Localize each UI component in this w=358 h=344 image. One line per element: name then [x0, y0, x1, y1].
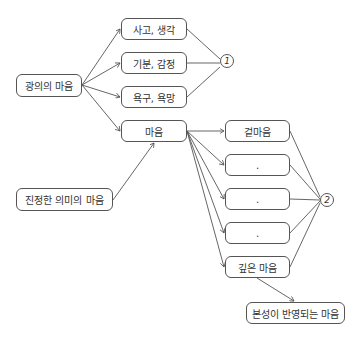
node-mind: 마음: [121, 120, 187, 142]
node-outer-mind: 겉마음: [225, 120, 290, 142]
node-nature-mind: 본성이 반영되는 마음: [246, 302, 345, 324]
group-marker-1: 1: [220, 54, 234, 68]
node-deep-mind: 깊은 마음: [225, 256, 290, 278]
node-broad-mind: 광의의 마음: [16, 74, 82, 97]
group-marker-2: 2: [320, 193, 334, 207]
node-thought: 사고, 생각: [121, 18, 187, 40]
node-placeholder-1: .: [225, 154, 290, 176]
node-placeholder-3: .: [225, 222, 290, 244]
node-emotion: 기분, 감정: [121, 52, 187, 74]
node-true-mind: 진정한 의미의 마음: [16, 188, 113, 211]
node-desire: 욕구, 욕망: [121, 86, 187, 108]
node-placeholder-2: .: [225, 188, 290, 210]
